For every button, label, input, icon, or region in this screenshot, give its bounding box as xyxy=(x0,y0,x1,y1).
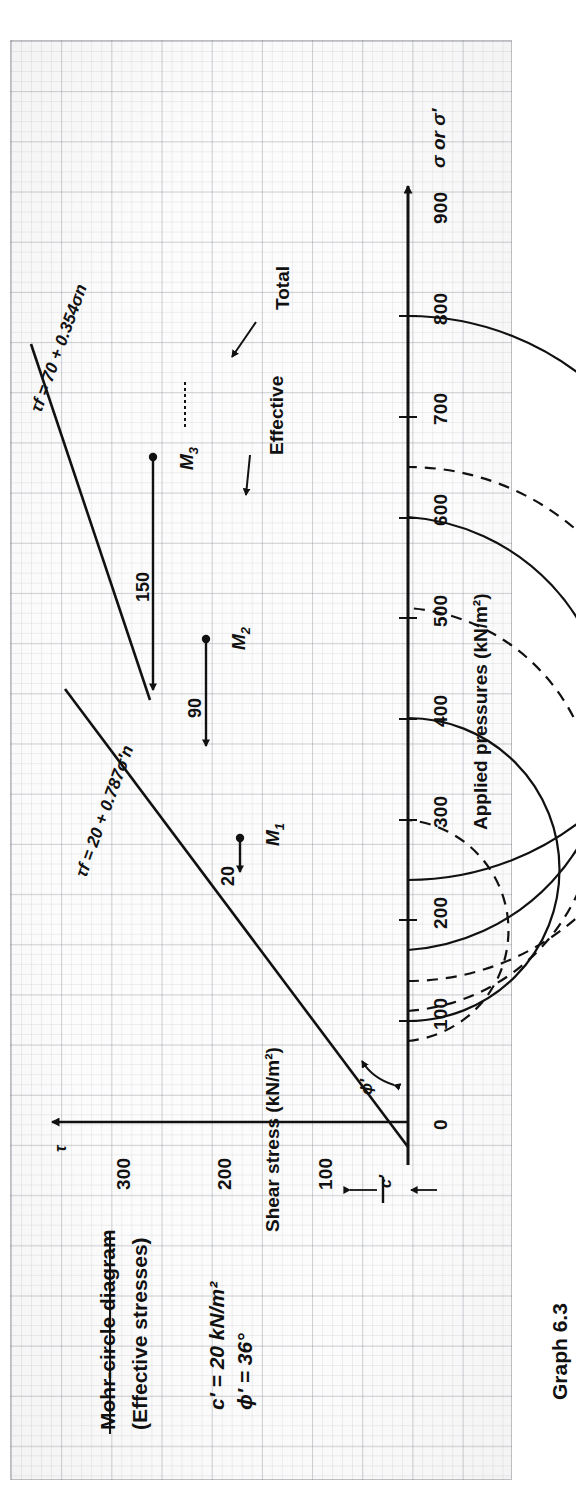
x-tick-600: 600 xyxy=(430,494,452,526)
tangency-point-m2 xyxy=(202,635,210,643)
x-tick-0: 0 xyxy=(430,1119,452,1130)
tangency-point-m3 xyxy=(149,453,157,461)
phi-label: ϕ′ xyxy=(358,1079,376,1095)
x-tick-400: 400 xyxy=(430,695,452,727)
point-label-m1: M1 xyxy=(262,823,287,846)
param-friction-angle: ϕ′ = 36° xyxy=(233,1333,257,1410)
x-tick-700: 700 xyxy=(430,393,452,425)
x-tick-800: 800 xyxy=(430,293,452,325)
title-divider xyxy=(109,1232,111,1434)
title-line-1: Mohr-circle diagram xyxy=(96,1229,120,1430)
title-line-2: (Effective stresses) xyxy=(128,1237,152,1430)
effective-stress-circles xyxy=(408,467,576,1041)
c-label: c′ xyxy=(377,1175,395,1188)
point-label-m3: M3 xyxy=(176,447,201,470)
y-axis-symbol: τ xyxy=(52,1145,70,1152)
pore-pressure-m3: 150 xyxy=(133,572,154,602)
param-cohesion: c′ = 20 kN/m² xyxy=(205,1282,229,1410)
point-label-m2: M2 xyxy=(228,627,253,650)
figure-caption: Graph 6.3 xyxy=(548,1303,572,1400)
y-axis-title: Shear stress (kN/m²) xyxy=(262,1047,284,1232)
x-axis-title: Applied pressures (kN/m²) xyxy=(470,594,492,831)
effective-curve-label: Effective xyxy=(266,376,288,455)
label-leaders xyxy=(232,322,256,495)
x-tick-200: 200 xyxy=(430,897,452,929)
tangency-point-m1 xyxy=(236,834,244,842)
sigma-axis xyxy=(399,186,417,1165)
y-tick-200: 200 xyxy=(214,1158,236,1190)
x-tick-500: 500 xyxy=(430,595,452,627)
pore-pressure-arrows xyxy=(153,455,240,872)
total-curve-label: Total xyxy=(272,266,294,310)
x-axis-symbol: σ or σ′ xyxy=(428,109,450,168)
y-tick-100: 100 xyxy=(315,1158,337,1190)
y-tick-300: 300 xyxy=(113,1158,135,1190)
pore-pressure-m1: 20 xyxy=(218,866,239,886)
pore-pressure-m2: 90 xyxy=(185,698,206,718)
x-tick-900: 900 xyxy=(430,192,452,224)
x-tick-300: 300 xyxy=(430,796,452,828)
figure-page: 0 100 200 300 400 500 600 700 800 900 σ … xyxy=(0,0,576,1486)
x-tick-100: 100 xyxy=(430,998,452,1030)
